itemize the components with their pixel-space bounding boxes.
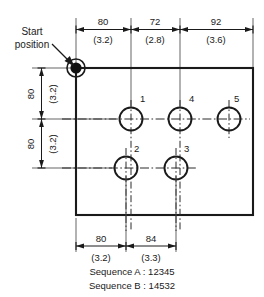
left-dim-1-alt: (3.2) bbox=[47, 84, 58, 104]
vertical-centerlines bbox=[126, 100, 229, 231]
bottom-dim-1-alt: (3.2) bbox=[91, 252, 111, 263]
hole-2-label: 2 bbox=[134, 143, 139, 154]
hole-4-label: 4 bbox=[189, 93, 194, 104]
sequence-b-note: Sequence B : 14532 bbox=[89, 280, 175, 291]
hole-3-label: 3 bbox=[184, 143, 189, 154]
bottom-dim-2-alt: (3.3) bbox=[141, 252, 161, 263]
horizontal-centerlines bbox=[62, 119, 250, 168]
left-dim-2-alt: (3.2) bbox=[47, 134, 58, 154]
workpiece-outline bbox=[76, 68, 253, 215]
start-position-leader bbox=[52, 44, 75, 67]
start-position-label-line2: position bbox=[15, 39, 49, 50]
technical-drawing: 80 72 92 (3.2) (2.8) (3.6) 80 (3.2) 80 (… bbox=[0, 0, 264, 297]
top-dim-2-alt: (2.8) bbox=[145, 34, 165, 45]
hole-5-label: 5 bbox=[234, 93, 239, 104]
top-dim-2-value: 72 bbox=[150, 16, 161, 27]
top-dim-3-value: 92 bbox=[211, 16, 222, 27]
top-dim-1-value: 80 bbox=[98, 16, 109, 27]
bottom-dim-1-value: 80 bbox=[96, 233, 107, 244]
left-dim-2-value: 80 bbox=[25, 139, 36, 150]
top-dimension-extension-lines bbox=[76, 18, 253, 106]
left-dim-1-value: 80 bbox=[25, 89, 36, 100]
top-dim-3-alt: (3.6) bbox=[206, 34, 226, 45]
start-position-label-line1: Start bbox=[21, 26, 42, 37]
bottom-dimension-line bbox=[76, 242, 176, 250]
hole-1-label: 1 bbox=[140, 93, 145, 104]
top-dim-1-alt: (3.2) bbox=[93, 34, 113, 45]
drawing-canvas: 80 72 92 (3.2) (2.8) (3.6) 80 (3.2) 80 (… bbox=[0, 0, 264, 297]
bottom-dim-2-value: 84 bbox=[146, 233, 157, 244]
left-dimension-extension-lines bbox=[32, 68, 116, 168]
left-dimension-line bbox=[38, 68, 46, 168]
sequence-a-note: Sequence A : 12345 bbox=[89, 266, 174, 277]
